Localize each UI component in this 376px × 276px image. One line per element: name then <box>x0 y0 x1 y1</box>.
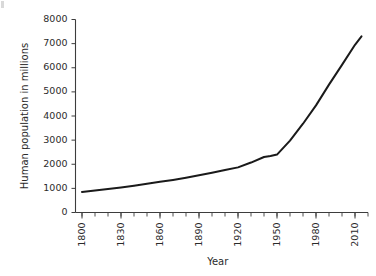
x-tick-label: 1980 <box>310 223 321 247</box>
x-axis-major-ticks <box>82 213 355 219</box>
y-tick-label: 1000 <box>43 182 67 193</box>
chart-canvas: 010002000300040005000600070008000 180018… <box>0 0 376 276</box>
corner-artifact <box>1 1 4 8</box>
y-tick-label: 5000 <box>43 85 67 96</box>
x-tick-label: 1800 <box>76 223 87 247</box>
y-axis-tick-labels: 010002000300040005000600070008000 <box>43 13 67 217</box>
x-axis-tick-labels: 18001830186018901920195019802010 <box>76 223 360 247</box>
x-tick-label: 1830 <box>115 223 126 247</box>
x-axis-minor-ticks <box>82 213 368 217</box>
x-tick-label: 1950 <box>271 223 282 247</box>
y-tick-label: 0 <box>61 206 67 217</box>
y-tick-label: 3000 <box>43 134 67 145</box>
y-axis-tick-marks <box>72 20 76 213</box>
y-tick-label: 2000 <box>43 158 67 169</box>
x-tick-label: 2010 <box>349 223 360 247</box>
y-tick-label: 7000 <box>43 37 67 48</box>
y-tick-label: 8000 <box>43 13 67 24</box>
x-tick-label: 1890 <box>193 223 204 247</box>
x-axis-title: Year <box>206 256 229 267</box>
y-axis-title: Human population in millions <box>19 43 30 189</box>
x-tick-label: 1860 <box>154 223 165 247</box>
population-series-line <box>82 36 362 192</box>
population-line-chart: 010002000300040005000600070008000 180018… <box>0 0 376 276</box>
y-tick-label: 6000 <box>43 61 67 72</box>
x-tick-label: 1920 <box>232 223 243 247</box>
y-tick-label: 4000 <box>43 110 67 121</box>
